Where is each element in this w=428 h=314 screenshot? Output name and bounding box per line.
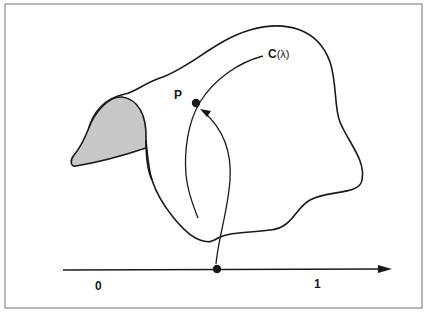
- axis-label-0: 0: [95, 279, 102, 293]
- axis-label-1: 1: [314, 277, 321, 291]
- point-p-label: P: [174, 88, 182, 102]
- curve-label-param: (λ): [277, 48, 290, 60]
- frame-border: [5, 4, 422, 308]
- diagram-canvas: P C(λ) 0 1: [0, 0, 428, 314]
- diagram-panel: P C(λ) 0 1: [0, 0, 428, 314]
- axis-point: [213, 265, 221, 273]
- curve-label-letter: C: [268, 47, 277, 61]
- curve-label: C(λ): [268, 47, 290, 61]
- point-p: [192, 99, 200, 107]
